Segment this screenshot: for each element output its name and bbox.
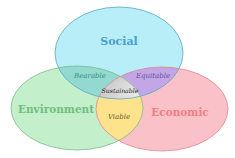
bearable-label: Bearable xyxy=(73,72,106,80)
viable-label: Viable xyxy=(108,113,130,121)
equitable-label: Equitable xyxy=(135,72,170,80)
environment-label: Environment xyxy=(18,103,94,115)
sustainable-label: Sustainable xyxy=(102,87,139,94)
venn-diagram: Social Environment Economic Bearable Equ… xyxy=(0,0,235,158)
social-label: Social xyxy=(100,35,137,48)
economic-label: Economic xyxy=(151,106,209,118)
